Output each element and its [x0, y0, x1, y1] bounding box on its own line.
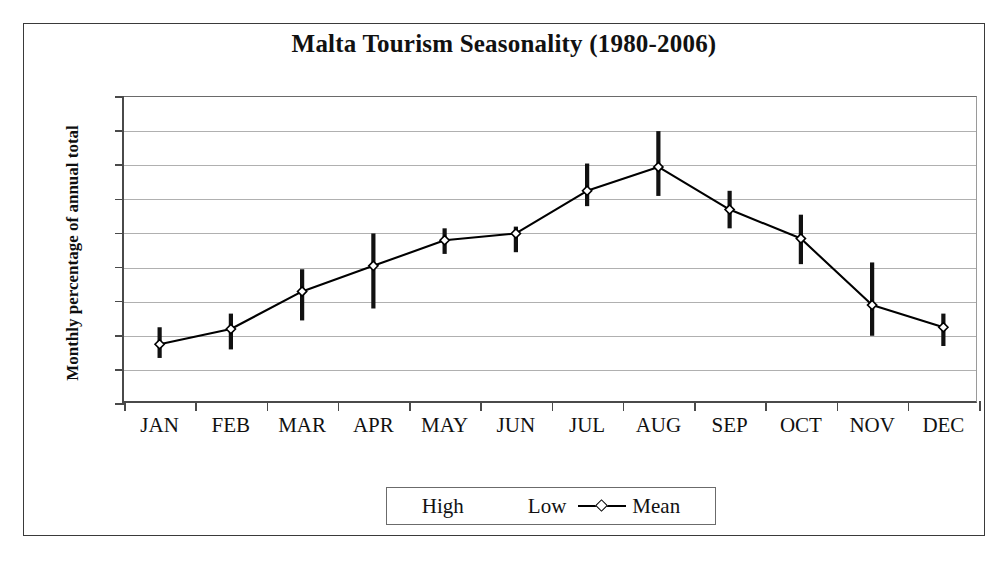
y-tick-mark	[115, 267, 124, 269]
legend-item-high: High	[422, 494, 464, 519]
mean-marker-dec	[939, 323, 948, 332]
mean-marker-sep	[725, 205, 734, 214]
mean-marker-apr	[369, 261, 378, 270]
legend-item-low: Low	[528, 494, 567, 519]
chart-title: Malta Tourism Seasonality (1980-2006)	[23, 30, 985, 58]
y-tick-mark	[115, 96, 124, 98]
chart-figure: Malta Tourism Seasonality (1980-2006) Mo…	[0, 0, 1006, 566]
mean-series-line	[160, 167, 944, 344]
chart-legend: High Low Mean	[386, 487, 716, 525]
mean-marker-aug	[654, 162, 663, 171]
legend-mean-marker-icon	[578, 499, 626, 513]
y-tick-mark	[115, 335, 124, 337]
mean-marker-may	[440, 236, 449, 245]
y-tick-mark	[115, 301, 124, 303]
y-tick-mark	[115, 164, 124, 166]
mean-marker-mar	[298, 287, 307, 296]
y-tick-mark	[115, 233, 124, 235]
error-bars-group	[160, 131, 944, 358]
series-plot	[124, 97, 979, 404]
mean-marker-feb	[226, 324, 235, 333]
mean-marker-jun	[511, 229, 520, 238]
mean-marker-jul	[583, 186, 592, 195]
mean-marker-jan	[155, 340, 164, 349]
plot-area: JANFEBMARAPRMAYJUNJULAUGSEPOCTNOVDEC	[122, 96, 977, 403]
y-tick-mark	[115, 403, 124, 405]
x-tick-mark	[979, 401, 981, 411]
legend-label-mean: Mean	[632, 494, 680, 519]
x-tick-label-dec: DEC	[888, 413, 998, 438]
y-axis-title: Monthly percentage of annual total	[63, 88, 83, 418]
y-tick-mark	[115, 199, 124, 201]
y-tick-mark	[115, 130, 124, 132]
mean-series-markers	[155, 162, 948, 349]
legend-label-high: High	[422, 494, 464, 519]
legend-item-mean: Mean	[578, 494, 680, 519]
y-tick-mark	[115, 369, 124, 371]
legend-label-low: Low	[528, 494, 567, 519]
